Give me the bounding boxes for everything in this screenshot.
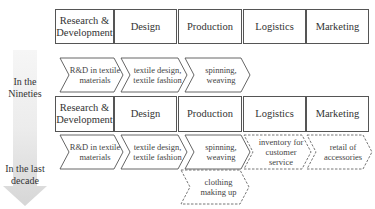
activity-label: accessories (324, 152, 362, 162)
activity-spinning-weaving: spinning, weaving (193, 58, 249, 92)
activity-label: service (269, 157, 293, 167)
activity-label: R&D in textile (70, 142, 121, 152)
activity-rd-textile-materials: R&D in textile materials (68, 58, 122, 92)
activity-label: materials (79, 152, 110, 162)
activity-label: spinning, (205, 142, 236, 152)
activity-label: textile design, (134, 142, 182, 152)
activity-textile-design: textile design, textile fashion (129, 58, 186, 92)
activity-clothing-making-up: clothing making up (189, 170, 248, 204)
activity-label: inventory for (259, 137, 304, 147)
activity-label: R&D in textile (70, 65, 121, 75)
activity-label: spinning, (205, 65, 236, 75)
activity-retail-accessories: retail of accessories (315, 135, 371, 169)
activity-label: textile fashion (133, 75, 181, 85)
activity-label: weaving (207, 75, 236, 85)
activity-textile-design: textile design, textile fashion (129, 135, 186, 169)
activity-chevrons (0, 0, 375, 209)
activity-label: materials (79, 75, 110, 85)
activity-label: making up (200, 187, 236, 197)
activity-label: customer (265, 147, 296, 157)
activity-label: textile design, (134, 65, 182, 75)
activity-spinning-weaving: spinning, weaving (193, 135, 249, 169)
activity-label: textile fashion (133, 152, 181, 162)
activity-label: weaving (207, 152, 236, 162)
activity-label: retail of (330, 142, 357, 152)
activity-inventory-customer-service: inventory for customer service (252, 135, 310, 169)
activity-rd-textile-materials: R&D in textile materials (68, 135, 122, 169)
activity-label: clothing (205, 177, 233, 187)
